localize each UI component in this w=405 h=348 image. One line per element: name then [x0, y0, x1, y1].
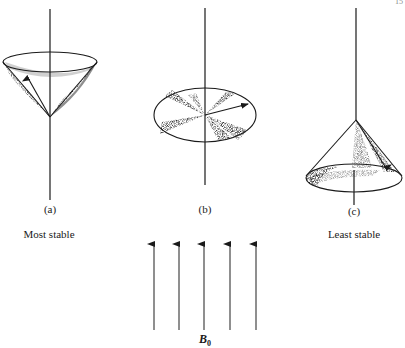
panel-b-disc — [154, 8, 256, 185]
b0-field-arrows — [154, 244, 256, 330]
panel-a-cone — [3, 9, 97, 200]
panel-c-caption: Least stable — [328, 228, 380, 240]
panel-a-label: (a) — [44, 203, 56, 215]
b0-symbol: B — [199, 332, 207, 346]
b0-subscript: 0 — [207, 339, 211, 348]
panel-b-label: (b) — [199, 203, 212, 215]
panel-c-label: (c) — [348, 205, 360, 217]
panel-c-cone — [306, 8, 402, 205]
panel-a-caption: Most stable — [23, 228, 74, 240]
b0-field-label: B0 — [199, 332, 211, 348]
